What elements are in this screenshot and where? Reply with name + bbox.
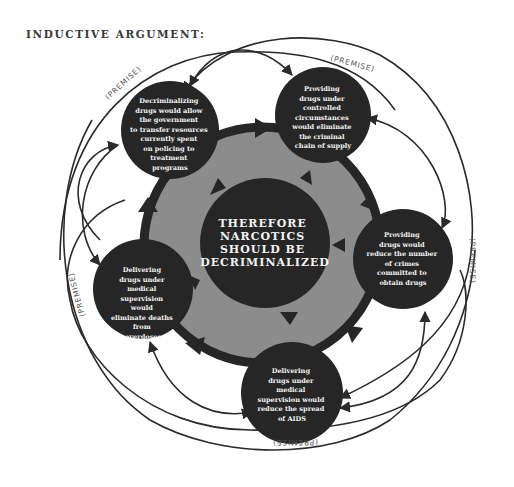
premise-node-reduce-crimes: Providing drugs would reduce the number …	[353, 209, 453, 309]
conclusion-node: THEREFORE NARCOTICS SHOULD BE DECRIMINAL…	[200, 178, 330, 308]
premise-label-bottom: (PREMISE)	[272, 438, 318, 447]
argument-diagram: THEREFORE NARCOTICS SHOULD BE DECRIMINAL…	[0, 0, 514, 487]
premise-label-right: (PREMISE)	[468, 238, 477, 284]
arrow-ring-right-bottom	[345, 325, 363, 343]
arc-left	[78, 145, 118, 240]
premise-node-eliminate-supply-chain: Providing drugs under controlled circums…	[275, 67, 371, 163]
premise-node-transfer-resources: Decriminalizing drugs would allow the go…	[121, 81, 219, 179]
svg-text:Providing drugs under: Providing drugs under controlled circums…	[291, 85, 354, 150]
premise-node-reduce-aids: Delivering drugs under medical supervisi…	[241, 342, 343, 444]
